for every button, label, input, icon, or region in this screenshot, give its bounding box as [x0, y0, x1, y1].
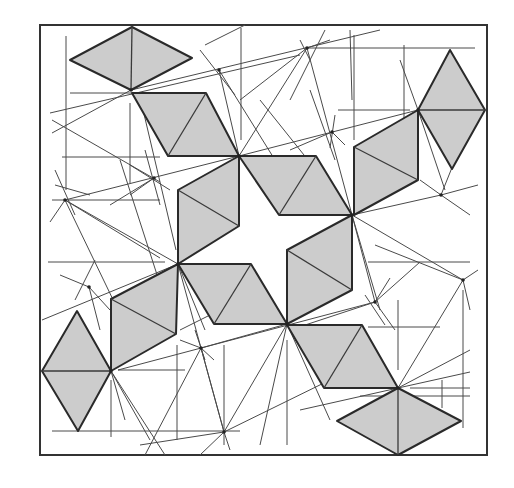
node-dot	[152, 176, 156, 180]
node-dot	[350, 213, 354, 217]
node-dot	[461, 278, 465, 282]
node-dot	[199, 346, 203, 350]
node-dot	[416, 108, 420, 112]
node-dot	[305, 46, 309, 50]
node-dot	[217, 68, 221, 72]
node-dot	[439, 193, 443, 197]
node-dot	[109, 369, 113, 373]
node-dot	[176, 262, 180, 266]
diagram-frame	[40, 25, 487, 455]
node-dot	[396, 386, 400, 390]
node-dot	[63, 198, 67, 202]
node-dot	[129, 88, 133, 92]
node-dot	[222, 430, 226, 434]
node-dot	[237, 154, 241, 158]
tiling-diagram	[0, 0, 514, 488]
node-dot	[87, 285, 91, 289]
node-dot	[285, 322, 289, 326]
node-dot	[330, 130, 334, 134]
node-dot	[373, 300, 377, 304]
